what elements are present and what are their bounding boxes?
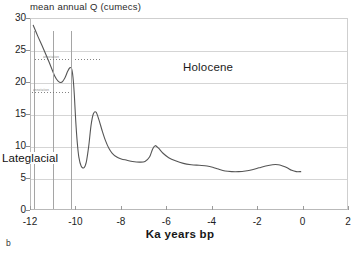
y-tick-label: 15 [0,108,26,119]
x-tick-label: -12 [15,216,45,227]
x-tick-mark [348,206,349,210]
x-tick-label: 2 [333,216,360,227]
y-tick-mark [26,146,30,147]
faint-annotation-line-upper [35,59,71,60]
y-tick-label: 30 [0,12,26,23]
x-tick-label: -6 [151,216,181,227]
x-axis-title: Ka years bp [0,228,360,240]
panel-letter: b [6,238,11,248]
y-axis-title: mean annual Q (cumecs) [30,1,141,12]
y-tick-label: 0 [0,204,26,215]
y-tick-mark [26,82,30,83]
faint-annotation-line-upper-2 [75,59,101,60]
discharge-curve [31,19,347,209]
plot-inner: annotation annotation Holocene [31,19,347,209]
figure-panel: mean annual Q (cumecs) annotation annota… [0,0,360,253]
y-tick-label: 10 [0,140,26,151]
y-tick-mark [26,114,30,115]
x-tick-label: -8 [106,216,136,227]
y-tick-label: 25 [0,44,26,55]
x-tick-label: -10 [60,216,90,227]
x-tick-label: -2 [242,216,272,227]
zone-divider-line [34,31,35,209]
x-tick-label: -4 [197,216,227,227]
faint-annotation-line-lower [31,92,71,93]
plot-area: annotation annotation Holocene [30,18,348,210]
y-tick-mark [26,50,30,51]
y-tick-label: 20 [0,76,26,87]
zone-divider-line [71,31,72,209]
y-tick-label: 5 [0,172,26,183]
zone-label-lateglacial: Lateglacial [2,152,58,164]
faint-annotation-text-upper: annotation [43,55,59,59]
x-tick-label: 0 [288,216,318,227]
faint-annotation-text-lower: annotation [33,88,49,92]
y-tick-mark [26,210,30,211]
y-tick-mark [26,178,30,179]
y-tick-mark [26,18,30,19]
